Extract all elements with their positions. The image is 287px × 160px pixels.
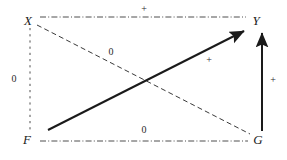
edge-sign-g-y: + bbox=[270, 75, 276, 85]
edge-sign-f-y: + bbox=[206, 55, 212, 65]
edge-sign-x-y: + bbox=[141, 4, 147, 14]
path-diagram: X Y F G + 0 0 + + 0 bbox=[0, 0, 287, 160]
edge-sign-f-g: 0 bbox=[142, 125, 147, 135]
node-label-y: Y bbox=[252, 14, 259, 27]
node-label-x: X bbox=[24, 14, 32, 27]
node-label-f: F bbox=[23, 133, 31, 146]
edge-x-g bbox=[37, 25, 250, 134]
edge-sign-x-g: 0 bbox=[109, 47, 114, 57]
diagram-canvas bbox=[0, 0, 287, 160]
edge-sign-x-f: 0 bbox=[12, 74, 17, 84]
node-label-g: G bbox=[253, 133, 262, 146]
